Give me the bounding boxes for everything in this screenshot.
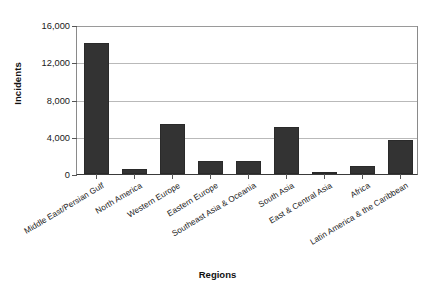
bar [198, 161, 223, 174]
x-axis-category-label: Africa [349, 181, 372, 200]
x-axis-title: Regions [0, 269, 435, 280]
x-axis-category-label: Southeast Asia & Oceania [170, 181, 257, 238]
y-axis-title: Incidents [12, 39, 23, 129]
x-axis-tick [172, 174, 173, 179]
x-axis-tick [210, 174, 211, 179]
x-axis-category-label: Latin America & the Caribbean [309, 181, 410, 247]
bar [388, 140, 413, 174]
bar [160, 124, 185, 174]
x-axis-category-label: Eastern Europe [166, 181, 220, 218]
x-axis-category-label: North America [94, 181, 144, 216]
bar [350, 166, 375, 174]
x-axis-tick [134, 174, 135, 179]
plot-area: 04,0008,00012,00016,000 [76, 26, 418, 175]
y-axis-tick-label: 8,000 [47, 96, 77, 106]
x-axis-tick [96, 174, 97, 179]
y-axis-tick-label: 16,000 [42, 21, 77, 31]
bar-chart: Incidents 04,0008,00012,00016,000 Middle… [0, 0, 435, 298]
x-axis-tick [362, 174, 363, 179]
y-axis-tick-label: 4,000 [47, 133, 77, 143]
x-axis-category-label: Western Europe [126, 181, 182, 219]
x-axis-category-label: South Asia [257, 181, 296, 209]
x-axis-category-label: Middle East/Persian Gulf [23, 181, 106, 236]
y-axis-tick-label: 0 [65, 170, 77, 180]
bar [84, 43, 109, 174]
y-axis-tick-label: 12,000 [42, 58, 77, 68]
bar [274, 127, 299, 174]
bar [236, 161, 261, 174]
bar-series [77, 26, 417, 174]
x-axis-tick [324, 174, 325, 179]
x-axis-tick [286, 174, 287, 179]
x-axis-tick [248, 174, 249, 179]
x-axis-category-label: East & Central Asia [268, 181, 334, 226]
x-axis-tick [400, 174, 401, 179]
